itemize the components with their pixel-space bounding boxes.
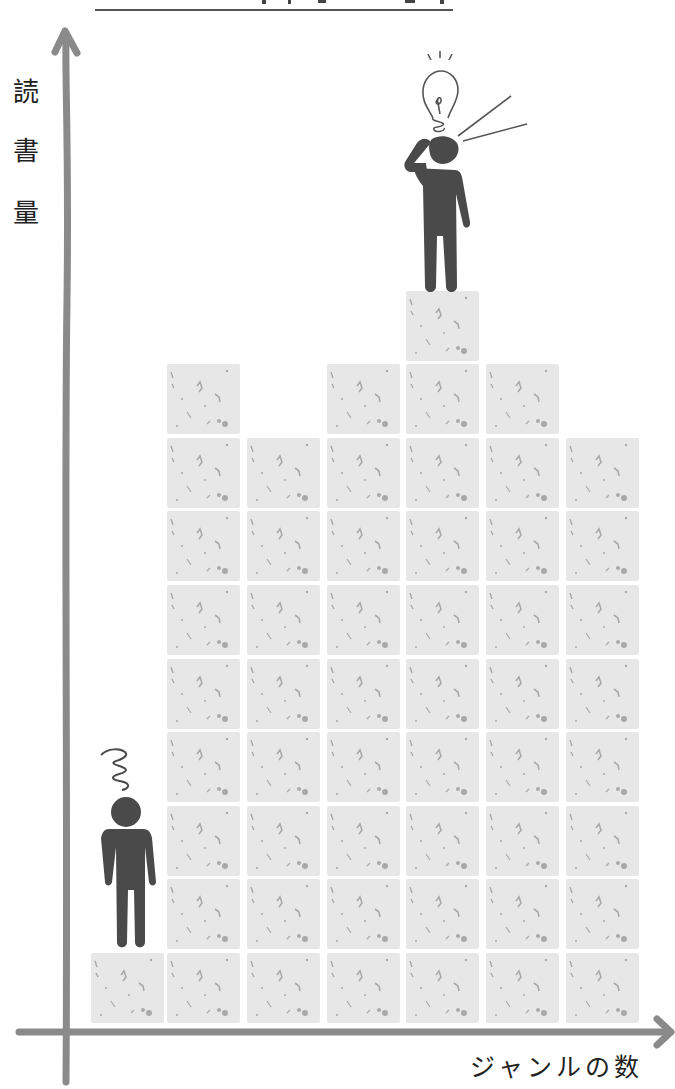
chart-overlay [0,0,675,1089]
confused-person-icon [101,749,156,947]
x-axis [19,1019,671,1045]
light-bulb-icon [423,51,527,141]
idea-person-icon [404,51,527,292]
y-axis [55,31,77,1082]
spiral-icon [101,749,128,790]
